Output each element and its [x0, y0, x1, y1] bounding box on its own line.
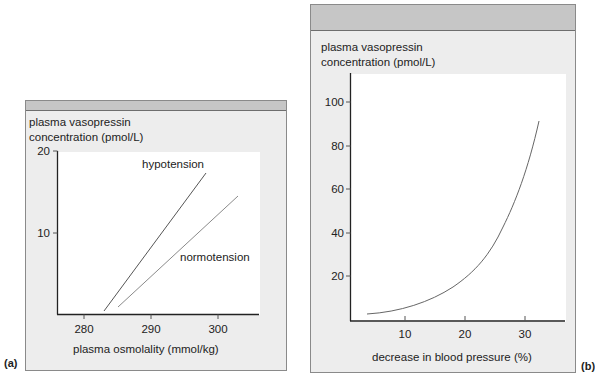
panel-b-xtick-30: 30 [519, 328, 532, 340]
panel-b-chart: 100 80 60 40 20 10 20 30 [0, 0, 595, 381]
panel-b-ytick-80: 80 [331, 140, 344, 152]
panel-b-ytick-40: 40 [331, 227, 344, 239]
panel-b-ytick-20: 20 [331, 270, 344, 282]
panel-b-xtick-10: 10 [399, 328, 412, 340]
vasopressin-curve [367, 121, 539, 314]
panel-b-ytick-100: 100 [325, 96, 344, 108]
panel-b-ytick-60: 60 [331, 183, 344, 195]
panel-b-xtick-20: 20 [459, 328, 472, 340]
